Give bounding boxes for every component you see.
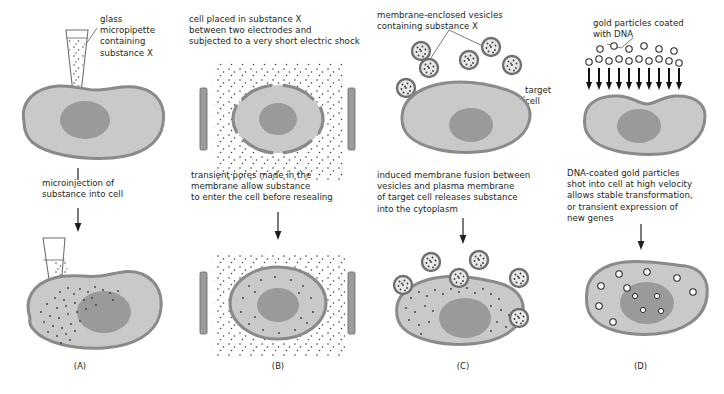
panel-b-artwork-bottom [183, 0, 373, 394]
panel-a-microinjection: glass micropipette containing substance … [0, 0, 190, 394]
panel-d-particle-bombardment: gold particles coated with DNA [563, 0, 724, 394]
arrow-a [75, 168, 82, 232]
panel-label-b: (B) [183, 361, 373, 371]
arrow-d [638, 224, 645, 250]
arrow-b [275, 212, 282, 240]
cell-bottom-b [230, 267, 326, 339]
panel-c-membrane-fusion: membrane-enclosed vesicles containing su… [373, 0, 563, 394]
nucleus-bottom-b [257, 288, 299, 322]
cell-bottom-a [28, 271, 161, 348]
panel-b-electroporation: cell placed in substance X between two e… [183, 0, 373, 394]
cell-bottom-d [586, 261, 707, 334]
panel-c-artwork-bottom [373, 0, 563, 394]
nucleus-bottom-a [77, 291, 131, 333]
panel-label-a: (A) [0, 361, 160, 371]
cell-bottom-c [394, 269, 528, 344]
electrode-left-bottom [200, 272, 207, 334]
electrode-right-bottom [348, 272, 355, 334]
arrow-c [460, 218, 467, 244]
nucleus-bottom-c [439, 298, 491, 338]
figure-cell-delivery-methods: glass micropipette containing substance … [0, 0, 724, 394]
panel-d-artwork-bottom [563, 0, 724, 394]
panel-label-d: (D) [563, 361, 718, 371]
panel-a-artwork-bottom [0, 0, 190, 394]
panel-label-c: (C) [373, 361, 553, 371]
